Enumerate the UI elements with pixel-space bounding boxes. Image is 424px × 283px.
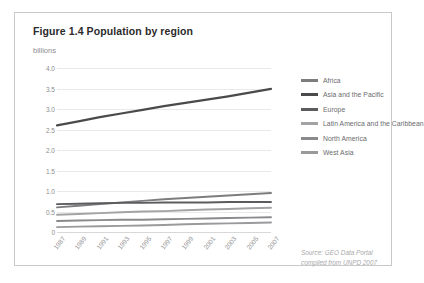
legend-label: Africa (323, 77, 341, 84)
x-axis-tick-label: 1997 (159, 235, 173, 251)
x-axis-tick-label: 1993 (116, 235, 130, 251)
legend-label: West Asia (323, 149, 354, 156)
y-axis-tick-label: 0.5 (46, 208, 55, 215)
legend-item[interactable]: Africa (301, 73, 411, 88)
y-axis-tick-label: 2.0 (46, 147, 55, 154)
legend-swatch-icon (301, 79, 318, 82)
legend-item[interactable]: Asia and the Pacific (301, 88, 411, 103)
y-axis-tick-label: 0 (51, 229, 55, 236)
x-axis-tick-label: 1999 (180, 235, 194, 251)
series-line (57, 202, 271, 204)
y-axis-tick-label: 4.0 (46, 65, 55, 72)
source-note: Source: GEO Data Portal compiled from UN… (301, 248, 406, 268)
y-axis-tick-label: 1.0 (46, 188, 55, 195)
y-axis-tick-label: 1.5 (46, 167, 55, 174)
series-lines (57, 68, 271, 232)
series-line (57, 193, 271, 207)
legend-swatch-icon (301, 108, 318, 111)
legend-swatch-icon (301, 93, 318, 96)
legend-label: Asia and the Pacific (323, 91, 384, 98)
legend-swatch-icon (301, 151, 318, 154)
y-axis-unit-label: billions (33, 46, 56, 55)
x-axis-tick-label: 1991 (95, 235, 109, 251)
series-line (57, 208, 271, 215)
legend-label: Europe (323, 106, 345, 113)
chart-legend: AfricaAsia and the PacificEuropeLatin Am… (301, 73, 411, 160)
legend-item[interactable]: North America (301, 131, 411, 146)
x-axis-tick-label: 1995 (138, 235, 152, 251)
y-axis-tick-label: 3.0 (46, 106, 55, 113)
source-line-2: compiled from UNPD 2007 (301, 258, 406, 268)
page-title: Figure 1.4 Population by region (33, 25, 193, 37)
gridline (57, 232, 271, 233)
legend-swatch-icon (301, 122, 318, 125)
legend-swatch-icon (301, 137, 318, 140)
legend-item[interactable]: Latin America and the Caribbean (301, 117, 411, 132)
x-axis-tick-label: 2001 (202, 235, 216, 251)
x-axis-tick-labels: 1987198919911993199519971999200120032005… (57, 235, 271, 269)
series-line (57, 217, 271, 221)
legend-item[interactable]: Europe (301, 102, 411, 117)
y-axis-tick-label: 3.5 (46, 85, 55, 92)
x-axis-tick-label: 2007 (266, 235, 280, 251)
plot-area (57, 68, 271, 232)
y-axis-tick-label: 2.5 (46, 126, 55, 133)
legend-label: Latin America and the Caribbean (323, 120, 424, 127)
x-axis-tick-label: 1989 (73, 235, 87, 251)
x-axis-tick-label: 2003 (223, 235, 237, 251)
x-axis-tick-label: 1987 (52, 235, 66, 251)
legend-item[interactable]: West Asia (301, 146, 411, 161)
series-line (57, 223, 271, 228)
series-line (57, 89, 271, 125)
figure-card: Figure 1.4 Population by region billions… (14, 12, 392, 266)
legend-label: North America (323, 135, 367, 142)
y-axis-tick-labels: 00.51.01.52.02.53.03.54.0 (35, 68, 55, 232)
x-axis-tick-label: 2005 (245, 235, 259, 251)
source-line-1: Source: GEO Data Portal (301, 248, 406, 258)
